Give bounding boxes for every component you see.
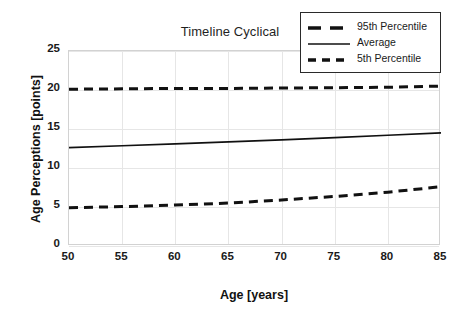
- x-axis-label: Age [years]: [68, 288, 440, 302]
- y-tick-label: 0: [18, 237, 60, 249]
- legend-label: Average: [357, 36, 396, 48]
- data-series-layer: [69, 51, 441, 246]
- x-tick-label: 75: [314, 250, 354, 262]
- y-tick-label: 10: [18, 159, 60, 171]
- chart-container: Timeline Cyclical Age Perceptions [point…: [0, 0, 472, 318]
- legend-swatch-icon: [308, 36, 350, 48]
- x-tick-label: 55: [101, 250, 141, 262]
- legend-item[interactable]: Average: [308, 34, 433, 50]
- x-tick-label: 70: [261, 250, 301, 262]
- legend-swatch-icon: [308, 20, 350, 32]
- legend-label: 95th Percentile: [357, 20, 427, 32]
- x-tick-label: 50: [48, 250, 88, 262]
- legend-swatch-icon: [308, 52, 350, 64]
- x-tick-label: 85: [420, 250, 460, 262]
- plot-area: [68, 50, 440, 245]
- chart-title: Timeline Cyclical: [150, 24, 310, 39]
- x-tick-label: 65: [207, 250, 247, 262]
- legend-item[interactable]: 95th Percentile: [308, 18, 433, 34]
- legend-item[interactable]: 5th Percentile: [308, 50, 433, 66]
- series-line: [69, 86, 441, 89]
- series-line: [69, 133, 441, 148]
- y-tick-label: 15: [18, 120, 60, 132]
- gridline-horizontal: [69, 246, 439, 247]
- y-axis-label: Age Perceptions [points]: [29, 49, 43, 249]
- legend-label: 5th Percentile: [357, 52, 421, 64]
- y-tick-label: 20: [18, 81, 60, 93]
- chart-legend: 95th PercentileAverage5th Percentile: [300, 12, 441, 73]
- series-line: [69, 187, 441, 208]
- x-tick-label: 80: [367, 250, 407, 262]
- x-tick-label: 60: [154, 250, 194, 262]
- y-tick-label: 25: [18, 42, 60, 54]
- y-tick-label: 5: [18, 198, 60, 210]
